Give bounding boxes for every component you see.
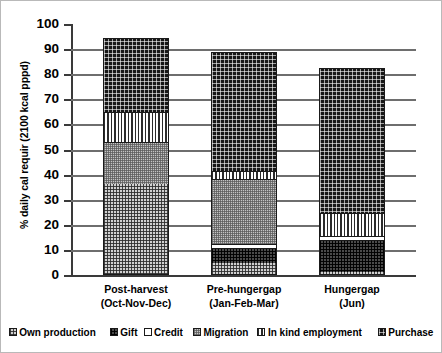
x-label-hungergap-line1: Hungergap xyxy=(324,283,379,295)
y-tick-label-30: 30 xyxy=(44,191,59,208)
y-tick-label-10: 10 xyxy=(44,241,59,258)
chart-figure: % daily cal requir (2100 kcal pppd) 100 … xyxy=(0,0,442,353)
bar-segment-gift[interactable] xyxy=(212,248,276,263)
legend-swatch-purchase-icon xyxy=(378,328,386,336)
legend-swatch-gift-icon xyxy=(110,328,118,336)
bar-segment-migration[interactable] xyxy=(212,179,276,244)
bar-segment-gift[interactable] xyxy=(320,240,384,272)
stacked-bar-pre-hungergap[interactable] xyxy=(211,52,277,275)
legend-item-own-production[interactable]: Own production xyxy=(9,327,96,338)
legend-label: Credit xyxy=(154,327,183,338)
bar-segment-credit[interactable] xyxy=(320,236,384,240)
y-axis-title: % daily cal requir (2100 kcal pppd) xyxy=(16,30,32,260)
y-tick-label-0: 0 xyxy=(51,266,59,283)
legend-item-in-kind-employment[interactable]: In kind employment xyxy=(257,327,361,338)
bar-segment-migration[interactable] xyxy=(104,142,168,183)
bar-segment-purchase[interactable] xyxy=(104,38,168,112)
y-tick-label-20: 20 xyxy=(44,216,59,233)
legend-label: Migration xyxy=(203,327,248,338)
y-tick-label-90: 90 xyxy=(44,40,59,57)
y-tick-label-100: 100 xyxy=(36,15,59,32)
y-tick-label-40: 40 xyxy=(44,166,59,183)
legend-item-purchase[interactable]: Purchase xyxy=(378,327,434,338)
y-tick-label-60: 60 xyxy=(44,115,59,132)
x-axis-labels: Post-harvest (Oct-Nov-Dec) Pre-hungergap… xyxy=(71,283,416,317)
plot-area: 100 90 80 70 60 50 40 30 xyxy=(71,24,416,275)
bar-segment-in-kind-employment[interactable] xyxy=(320,213,384,237)
y-tick-label-50: 50 xyxy=(44,141,59,158)
legend-label: In kind employment xyxy=(268,327,362,338)
chart-legend: Own productionGiftCreditMigrationIn kind… xyxy=(0,322,442,342)
legend-swatch-own-production-icon xyxy=(9,328,17,336)
bar-segment-own-production[interactable] xyxy=(212,263,276,274)
stacked-bar-post-harvest[interactable] xyxy=(103,38,169,275)
legend-label: Own production xyxy=(19,327,96,338)
bar-segment-own-production[interactable] xyxy=(320,272,384,274)
bar-segment-purchase[interactable] xyxy=(320,68,384,213)
x-label-post-harvest-line1: Post-harvest xyxy=(104,283,168,295)
legend-swatch-credit-icon xyxy=(144,328,152,336)
bar-segment-purchase[interactable] xyxy=(212,52,276,171)
bar-segment-credit[interactable] xyxy=(212,244,276,248)
y-tick-label-70: 70 xyxy=(44,90,59,107)
bar-segment-in-kind-employment[interactable] xyxy=(212,171,276,179)
bar-segment-own-production[interactable] xyxy=(104,184,168,274)
legend-label: Gift xyxy=(120,327,137,338)
bar-segment-in-kind-employment[interactable] xyxy=(104,112,168,142)
x-label-hungergap-line2: (Jun) xyxy=(287,297,417,311)
legend-label: Purchase xyxy=(388,327,433,338)
y-tick-label-80: 80 xyxy=(44,65,59,82)
x-label-hungergap: Hungergap (Jun) xyxy=(287,283,417,310)
legend-item-gift[interactable]: Gift xyxy=(110,327,138,338)
legend-item-credit[interactable]: Credit xyxy=(144,327,183,338)
x-label-pre-hungergap-line1: Pre-hungergap xyxy=(207,283,282,295)
legend-item-migration[interactable]: Migration xyxy=(193,327,249,338)
legend-swatch-in-kind-employment-icon xyxy=(257,328,265,336)
bar-group xyxy=(71,24,416,275)
legend-swatch-migration-icon xyxy=(193,328,201,336)
stacked-bar-hungergap[interactable] xyxy=(319,68,385,275)
